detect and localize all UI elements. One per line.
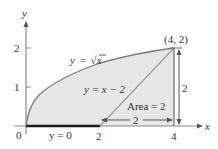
y-tick-label-1: 1 — [14, 81, 20, 93]
sqrt-curve-label: y = √x — [69, 54, 102, 66]
sqrt-label-lhs: y — [69, 54, 75, 66]
y-equals-zero-label: y = 0 — [49, 129, 72, 141]
area-label: Area = 2 — [127, 100, 166, 112]
point-label: (4, 2) — [164, 33, 188, 46]
height-dimension-label: 2 — [182, 82, 188, 94]
sqrt-label-eq: = — [80, 54, 86, 66]
x-tick-label-2: 2 — [96, 130, 102, 142]
area-between-curves-figure: y x 2 1 0 2 4 y = 0 y = √x y = x − 2 (4,… — [0, 0, 218, 149]
x-tick-label-4: 4 — [171, 130, 177, 142]
y-tick-label-2: 2 — [14, 42, 20, 54]
width-dimension-label: 2 — [133, 114, 139, 126]
x-axis-label: x — [204, 120, 210, 132]
sqrt-label-rhs: x — [96, 54, 102, 66]
y-axis-label: y — [21, 7, 27, 19]
x-tick-label-0: 0 — [16, 129, 22, 141]
line-label: y = x − 2 — [83, 83, 126, 95]
